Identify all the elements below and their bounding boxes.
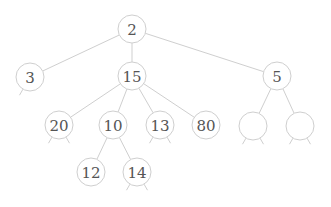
tree-node-2: 2 (118, 15, 146, 43)
node-label: 10 (103, 117, 122, 135)
edge-n5-e2 (283, 89, 294, 114)
node-label: 12 (81, 164, 100, 182)
tree-node-3: 3 (16, 63, 44, 91)
stub-line (167, 137, 171, 143)
tree-node-80: 80 (192, 111, 220, 139)
node-circle (239, 112, 267, 140)
node-layer: 23155201013801214 (16, 15, 314, 186)
stub-line (49, 137, 53, 143)
node-label: 80 (196, 117, 215, 135)
stub-line (127, 184, 131, 190)
tree-node-20: 20 (45, 111, 73, 139)
node-label: 5 (272, 68, 282, 86)
tree-node-10: 10 (99, 111, 127, 139)
stub-line (260, 138, 264, 144)
node-label: 15 (122, 68, 141, 86)
node-circle (286, 112, 314, 140)
tree-node-15: 15 (118, 62, 146, 90)
stub-line (243, 138, 247, 144)
node-label: 3 (25, 69, 35, 87)
stub-line (66, 137, 70, 143)
edge-n10-n12 (97, 138, 107, 160)
edge-n2-n3 (43, 35, 120, 71)
edge-layer (43, 33, 294, 159)
stub-line (20, 89, 24, 95)
tree-diagram: 23155201013801214 (0, 0, 331, 207)
stub-line (144, 184, 148, 190)
edge-n15-n10 (118, 89, 127, 112)
tree-node-empty (286, 112, 314, 140)
node-label: 14 (127, 164, 146, 182)
tree-node-13: 13 (146, 111, 174, 139)
edge-n15-n80 (144, 84, 195, 118)
edge-n5-e1 (259, 89, 271, 114)
node-label: 2 (127, 21, 137, 39)
stub-layer (20, 89, 311, 190)
stub-line (150, 137, 154, 143)
tree-node-12: 12 (77, 158, 105, 186)
edge-n2-n5 (145, 33, 263, 71)
tree-node-14: 14 (123, 158, 151, 186)
node-label: 20 (49, 117, 68, 135)
stub-line (307, 138, 311, 144)
tree-node-empty (239, 112, 267, 140)
node-label: 13 (150, 117, 169, 135)
tree-node-5: 5 (263, 62, 291, 90)
edge-n10-n14 (119, 138, 130, 160)
stub-line (290, 138, 294, 144)
edge-n15-n13 (139, 88, 153, 113)
